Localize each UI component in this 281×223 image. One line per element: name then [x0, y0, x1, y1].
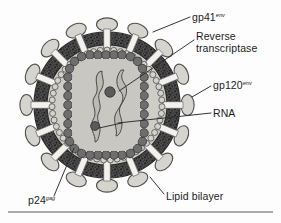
matrix-bead: [58, 72, 64, 78]
label-lipid-bilayer: Lipid bilayer: [166, 191, 223, 203]
capsid-bead: [64, 101, 73, 110]
capsid-bead: [86, 151, 95, 160]
matrix-bead: [153, 77, 159, 83]
matrix-bead: [51, 117, 57, 123]
capsid-bead: [102, 151, 111, 160]
capsid-bead: [64, 91, 73, 100]
capsid-bead: [118, 51, 127, 60]
capsid-bead: [110, 151, 119, 160]
capsid-bead: [86, 51, 95, 60]
matrix-bead: [159, 104, 165, 110]
capsid-bead: [64, 73, 73, 82]
label-gp120-superscript: env: [243, 80, 252, 86]
capsid-bead: [64, 82, 73, 91]
matrix-bead: [156, 84, 162, 90]
label-rna: RNA: [213, 108, 235, 120]
capsid-bead: [140, 82, 149, 91]
matrix-bead: [55, 77, 61, 83]
capsid-interior: [72, 59, 140, 151]
matrix-bead: [158, 90, 164, 96]
label-reverse-transcriptase: Reversetranscriptase: [196, 30, 280, 54]
capsid-bead: [138, 64, 147, 73]
matrix-bead: [50, 110, 56, 116]
label-rt-line2: transcriptase: [196, 42, 257, 54]
capsid-bead: [140, 110, 149, 119]
capsid-bead: [94, 51, 103, 60]
capsid-bead: [94, 151, 103, 160]
matrix-bead: [155, 123, 161, 129]
matrix-bead: [152, 130, 158, 136]
capsid-bead: [110, 51, 119, 60]
capsid-bead: [118, 151, 127, 160]
matrix-bead: [52, 84, 58, 90]
label-gp41-env: gp41env: [192, 12, 225, 24]
label-p24-superscript: gag: [46, 195, 55, 201]
label-gp41-superscript: env: [216, 12, 225, 18]
capsid-bead: [77, 52, 86, 61]
capsid-bead: [102, 51, 111, 60]
capsid-bead: [65, 137, 74, 146]
matrix-bead: [148, 135, 154, 141]
matrix-bead: [50, 90, 56, 96]
capsid-bead: [64, 129, 73, 138]
capsid-bead: [64, 119, 73, 128]
hiv-virion-figure: gp41env Reversetranscriptase gp120env RN…: [0, 0, 281, 223]
label-gp120-env: gp120env: [213, 80, 252, 92]
capsid-bead: [64, 110, 73, 119]
matrix-bead: [53, 123, 59, 129]
capsid-bead: [140, 129, 149, 138]
matrix-bead: [56, 130, 62, 136]
matrix-bead: [49, 104, 55, 110]
label-p24-gag: p24gag: [28, 195, 55, 207]
label-rt-line1: Reverse: [196, 30, 236, 42]
rt-enzyme-dot: [105, 87, 115, 97]
label-gp41-text: gp41: [192, 11, 216, 23]
matrix-bead: [150, 72, 156, 78]
capsid-bead: [126, 149, 135, 158]
matrix-bead: [158, 110, 164, 116]
matrix-bead: [159, 97, 165, 103]
rt-enzyme-dot: [91, 122, 100, 131]
matrix-bead: [49, 97, 55, 103]
label-gp120-text: gp120: [213, 79, 243, 91]
label-p24-text: p24: [28, 194, 46, 206]
capsid-bead: [140, 101, 149, 110]
capsid-bead: [140, 91, 149, 100]
